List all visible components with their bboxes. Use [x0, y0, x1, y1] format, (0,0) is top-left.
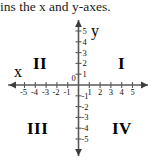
y-axis-up-arrow-icon — [75, 20, 82, 27]
quadrant-label-III: III — [27, 119, 48, 139]
ytick-label-neg2: -2 — [82, 102, 89, 112]
caption-text: ins the x and y-axes. — [0, 0, 157, 15]
y-axis-down-arrow-icon — [75, 149, 82, 156]
xtick-label-neg4: -4 — [31, 87, 38, 97]
quadrant-label-IV: IV — [112, 119, 132, 139]
x-axis-label: x — [14, 63, 22, 81]
ytick-label-3: 3 — [83, 48, 87, 58]
ytick-label-neg3: -3 — [82, 112, 89, 122]
xtick-label-2: 2 — [98, 87, 102, 97]
x-axis-left-arrow-icon — [9, 82, 16, 89]
coordinate-plane-figure: ins the x and y-axes. — [0, 0, 157, 161]
quadrant-label-II: II — [33, 54, 47, 74]
quadrant-label-I: I — [118, 54, 125, 74]
xtick-label-5: 5 — [130, 87, 134, 97]
ytick-label-1: 1 — [83, 69, 87, 79]
x-axis-right-arrow-icon — [141, 82, 148, 89]
xtick-label-neg2: -2 — [53, 87, 60, 97]
ytick-label-neg1: -1 — [82, 91, 89, 101]
ytick-label-5: 5 — [83, 26, 87, 36]
origin-label: 0 — [72, 73, 76, 83]
y-axis-label: y — [91, 22, 99, 40]
ytick-label-2: 2 — [83, 58, 87, 68]
xtick-label-neg5: -5 — [20, 87, 27, 97]
xtick-label-neg3: -3 — [42, 87, 49, 97]
ytick-label-neg4: -4 — [82, 123, 89, 133]
ytick-label-4: 4 — [83, 37, 87, 47]
xtick-label-3: 3 — [109, 87, 113, 97]
ytick-label-neg5: -5 — [82, 134, 89, 144]
xtick-label-4: 4 — [120, 87, 124, 97]
plot-area: -5 -4 -3 -2 -1 1 2 3 4 5 5 4 3 2 1 -1 -2… — [0, 16, 157, 161]
xtick-label-neg1: -1 — [64, 87, 71, 97]
